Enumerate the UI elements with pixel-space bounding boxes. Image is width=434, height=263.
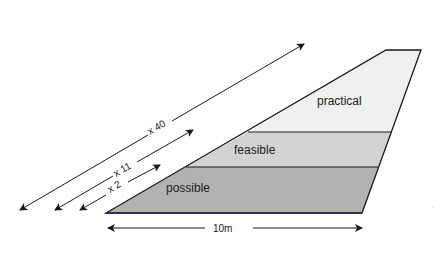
speck xyxy=(432,206,433,207)
multiplier-x2-label: x 2 xyxy=(106,178,123,194)
multiplier-x11-label: x 11 xyxy=(112,160,134,179)
multiplier-x40-label: x 40 xyxy=(146,118,168,137)
label-practical: practical xyxy=(317,94,362,108)
width-label: 10m xyxy=(213,223,232,234)
label-possible: possible xyxy=(166,181,210,195)
feasibility-diagram: practical feasible possible 10m x 40 x 1… xyxy=(0,0,434,263)
practical-layer xyxy=(248,50,421,132)
label-feasible: feasible xyxy=(234,143,276,157)
feasible-layer xyxy=(186,132,392,167)
